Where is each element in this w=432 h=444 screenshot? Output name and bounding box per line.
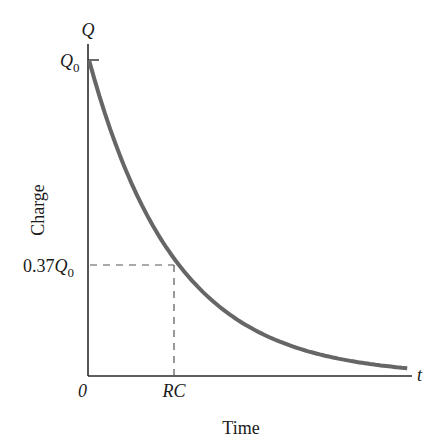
x-axis-symbol: t bbox=[417, 365, 423, 385]
q037-label: 0.37Q0 bbox=[23, 256, 74, 280]
y-axis-label: Charge bbox=[28, 184, 48, 236]
decay-curve bbox=[89, 60, 407, 368]
charge-decay-chart: Q Q0 0.37Q0 Charge 0 RC t Time bbox=[0, 0, 432, 444]
q0-label: Q0 bbox=[60, 51, 80, 75]
rc-tick-label: RC bbox=[161, 381, 186, 401]
y-axis-symbol: Q bbox=[82, 20, 95, 40]
x-axis-label: Time bbox=[222, 418, 259, 438]
origin-label: 0 bbox=[78, 381, 87, 401]
